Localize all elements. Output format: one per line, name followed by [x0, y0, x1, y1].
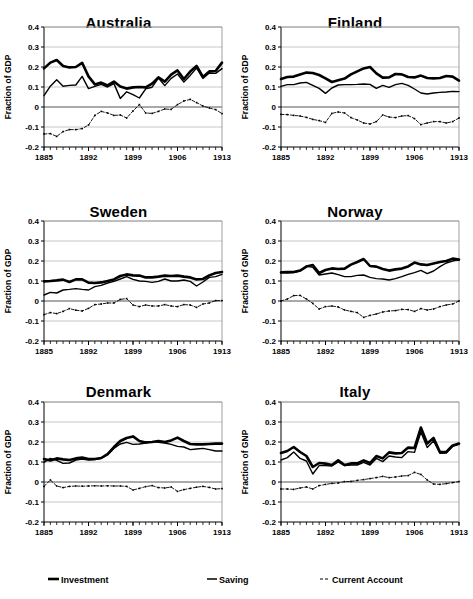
- svg-text:-0.2: -0.2: [25, 143, 39, 152]
- svg-text:0.1: 0.1: [265, 277, 277, 286]
- svg-text:0.3: 0.3: [265, 43, 277, 52]
- legend-item-current-account: Current Account: [320, 574, 403, 585]
- svg-text:1906: 1906: [169, 528, 187, 537]
- svg-text:1906: 1906: [169, 153, 187, 162]
- svg-text:1892: 1892: [80, 347, 98, 356]
- legend-item-saving: Saving: [207, 574, 249, 585]
- svg-text:1892: 1892: [317, 528, 335, 537]
- legend-item-investment: Investment: [48, 574, 109, 585]
- svg-text:1892: 1892: [317, 153, 335, 162]
- svg-text:-0.2: -0.2: [262, 143, 276, 152]
- svg-text:0.4: 0.4: [265, 23, 277, 32]
- chart-panel-australia: Australia 0.40.30.20.10-0.1-0.2188518921…: [0, 0, 237, 195]
- svg-text:1913: 1913: [213, 153, 231, 162]
- plot-area-denmark: 0.40.30.20.10-0.1-0.21885189218991906191…: [0, 394, 237, 544]
- series-line: [281, 472, 459, 489]
- chart-grid: Australia 0.40.30.20.10-0.1-0.2188518921…: [0, 0, 473, 560]
- svg-text:0: 0: [35, 297, 40, 306]
- svg-text:-0.1: -0.1: [262, 498, 276, 507]
- chart-panel-finland: Finland 0.40.30.20.10-0.1-0.218851892189…: [237, 0, 473, 195]
- svg-text:-0.2: -0.2: [262, 337, 276, 346]
- series-line: [44, 274, 222, 295]
- svg-text:0.1: 0.1: [28, 458, 40, 467]
- svg-text:-0.1: -0.1: [262, 123, 276, 132]
- series-line: [44, 60, 222, 89]
- legend-key-thin-solid-line-icon: [207, 575, 217, 585]
- svg-text:0.1: 0.1: [265, 458, 277, 467]
- legend-key-dashed-line-icon: [320, 575, 330, 585]
- svg-text:0.1: 0.1: [265, 83, 277, 92]
- svg-text:1913: 1913: [213, 347, 231, 356]
- svg-text:Fraction of GNP: Fraction of GNP: [240, 429, 250, 494]
- series-line: [281, 112, 459, 125]
- svg-text:0: 0: [272, 103, 277, 112]
- svg-text:0.2: 0.2: [28, 63, 40, 72]
- svg-text:1892: 1892: [80, 153, 98, 162]
- series-line: [281, 295, 459, 317]
- svg-text:0.2: 0.2: [28, 438, 40, 447]
- svg-text:-0.1: -0.1: [25, 123, 39, 132]
- svg-text:1885: 1885: [35, 347, 53, 356]
- series-line: [281, 82, 459, 94]
- svg-text:-0.1: -0.1: [25, 498, 39, 507]
- svg-text:1892: 1892: [80, 528, 98, 537]
- svg-text:1885: 1885: [35, 528, 53, 537]
- svg-text:0.4: 0.4: [265, 217, 277, 226]
- svg-text:-0.2: -0.2: [262, 518, 276, 527]
- svg-text:0.1: 0.1: [28, 277, 40, 286]
- svg-text:Fraction of GDP: Fraction of GDP: [3, 54, 13, 119]
- series-line: [44, 436, 222, 460]
- legend-key-thick-solid-line-icon: [48, 575, 59, 585]
- plot-area-australia: 0.40.30.20.10-0.1-0.21885189218991906191…: [0, 19, 237, 169]
- series-line: [44, 68, 222, 98]
- svg-text:0.1: 0.1: [28, 83, 40, 92]
- svg-text:1892: 1892: [317, 347, 335, 356]
- svg-text:1913: 1913: [450, 528, 468, 537]
- svg-text:1885: 1885: [35, 153, 53, 162]
- svg-text:Fraction of GDP: Fraction of GDP: [3, 248, 13, 313]
- svg-text:0.3: 0.3: [265, 237, 277, 246]
- svg-text:-0.2: -0.2: [25, 337, 39, 346]
- svg-text:Fraction of GDP: Fraction of GDP: [3, 429, 13, 494]
- svg-text:0: 0: [272, 297, 277, 306]
- svg-text:Fraction of GNP: Fraction of GNP: [240, 248, 250, 313]
- svg-text:1899: 1899: [124, 528, 142, 537]
- plot-area-italy: 0.40.30.20.10-0.1-0.21885189218991906191…: [237, 394, 473, 544]
- svg-text:0.2: 0.2: [265, 63, 277, 72]
- plot-area-norway: 0.40.30.20.10-0.1-0.21885189218991906191…: [237, 213, 473, 363]
- svg-text:1906: 1906: [406, 528, 424, 537]
- chart-panel-italy: Italy 0.40.30.20.10-0.1-0.21885189218991…: [237, 375, 473, 560]
- svg-text:Fraction of GDP: Fraction of GDP: [240, 54, 250, 119]
- svg-text:0.2: 0.2: [265, 257, 277, 266]
- legend-label-current-account: Current Account: [332, 575, 403, 585]
- svg-text:1885: 1885: [272, 347, 290, 356]
- svg-text:1899: 1899: [124, 153, 142, 162]
- svg-text:0.4: 0.4: [28, 217, 40, 226]
- svg-text:1885: 1885: [272, 153, 290, 162]
- svg-text:1913: 1913: [450, 153, 468, 162]
- svg-text:0.4: 0.4: [28, 398, 40, 407]
- svg-text:1899: 1899: [124, 347, 142, 356]
- svg-text:1899: 1899: [361, 347, 379, 356]
- chart-panel-norway: Norway 0.40.30.20.10-0.1-0.2188518921899…: [237, 195, 473, 375]
- svg-text:0.3: 0.3: [28, 237, 40, 246]
- series-line: [281, 67, 459, 82]
- legend-label-investment: Investment: [61, 575, 109, 585]
- svg-text:1913: 1913: [213, 528, 231, 537]
- svg-text:-0.1: -0.1: [25, 317, 39, 326]
- plot-area-finland: 0.40.30.20.10-0.1-0.21885189218991906191…: [237, 19, 473, 169]
- svg-text:0: 0: [35, 103, 40, 112]
- series-line: [44, 99, 222, 136]
- svg-text:1899: 1899: [361, 528, 379, 537]
- svg-text:1906: 1906: [169, 347, 187, 356]
- svg-text:-0.2: -0.2: [25, 518, 39, 527]
- chart-panel-sweden: Sweden 0.40.30.20.10-0.1-0.2188518921899…: [0, 195, 237, 375]
- svg-text:1906: 1906: [406, 153, 424, 162]
- plot-area-sweden: 0.40.30.20.10-0.1-0.21885189218991906191…: [0, 213, 237, 363]
- series-line: [281, 428, 459, 467]
- svg-text:0.4: 0.4: [28, 23, 40, 32]
- svg-text:0.3: 0.3: [265, 418, 277, 427]
- svg-text:0.3: 0.3: [28, 43, 40, 52]
- svg-text:1885: 1885: [272, 528, 290, 537]
- svg-text:1913: 1913: [450, 347, 468, 356]
